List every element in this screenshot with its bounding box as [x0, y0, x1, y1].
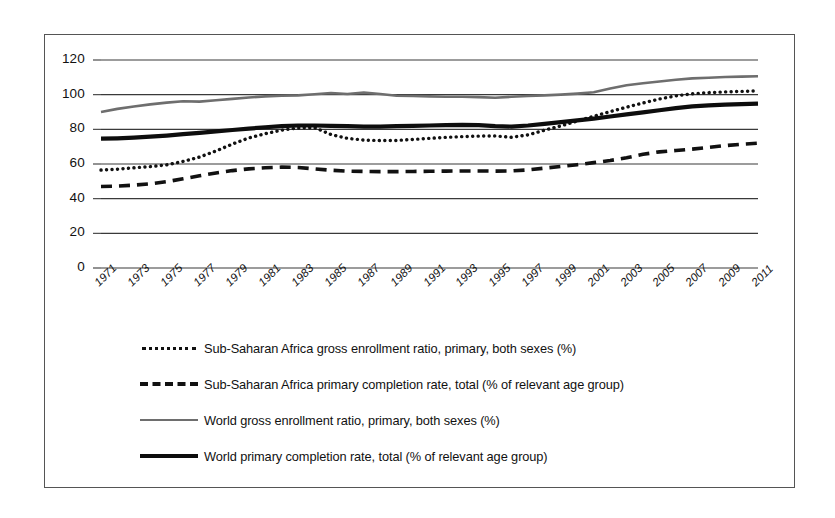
legend-label: World primary completion rate, total (% … [204, 449, 548, 464]
legend-marker-dotted-line-icon [140, 341, 198, 355]
legend-item-world-primary-completion: World primary completion rate, total (% … [140, 438, 760, 474]
chart-legend: Sub-Saharan Africa gross enrollment rati… [140, 330, 760, 474]
legend-label: Sub-Saharan Africa gross enrollment rati… [204, 341, 576, 356]
y-axis-tick-label: 60 [45, 155, 85, 170]
legend-item-ssa-primary-completion: Sub-Saharan Africa primary completion ra… [140, 366, 760, 402]
legend-marker-dashed-line-icon [140, 377, 198, 391]
y-axis-tick-label: 120 [45, 51, 85, 66]
y-axis-tick-label: 40 [45, 190, 85, 205]
y-axis-tick-label: 20 [45, 224, 85, 239]
series-line-1 [101, 143, 758, 186]
series-line-3 [101, 104, 758, 139]
legend-item-ssa-gross-enrollment: Sub-Saharan Africa gross enrollment rati… [140, 330, 760, 366]
legend-label: Sub-Saharan Africa primary completion ra… [204, 377, 624, 392]
legend-marker-solid-thick-line-icon [140, 449, 198, 463]
legend-marker-solid-thin-line-icon [140, 413, 198, 427]
legend-item-world-gross-enrollment: World gross enrollment ratio, primary, b… [140, 402, 760, 438]
y-axis-tick-label: 80 [45, 120, 85, 135]
y-axis-tick-label: 100 [45, 86, 85, 101]
y-axis-tick-label: 0 [45, 259, 85, 274]
legend-label: World gross enrollment ratio, primary, b… [204, 413, 500, 428]
